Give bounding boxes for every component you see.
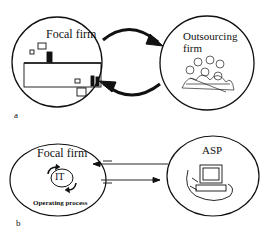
curved-bidirectional-arrows (99, 29, 163, 95)
panel-b-focal-firm-label: Focal firm (37, 146, 87, 161)
asp-label: ASP (202, 144, 222, 156)
computer-icon (187, 165, 233, 201)
crowd-of-people-icon (182, 56, 234, 92)
panel-a-outsourcing-label-1: Outsourcing (183, 30, 237, 42)
panel-b-letter: b (16, 218, 21, 228)
panel-a-focal-firm-label: Focal firm (46, 27, 96, 42)
panel-a-letter: a (14, 110, 18, 120)
panel-a-outsourcing-label-2: firm (183, 42, 202, 54)
two-straight-arrows-opposite-directions (93, 161, 168, 183)
it-label: IT (55, 171, 64, 182)
office-workers-icon (24, 43, 101, 96)
operating-process-label: Operating process (33, 199, 88, 207)
